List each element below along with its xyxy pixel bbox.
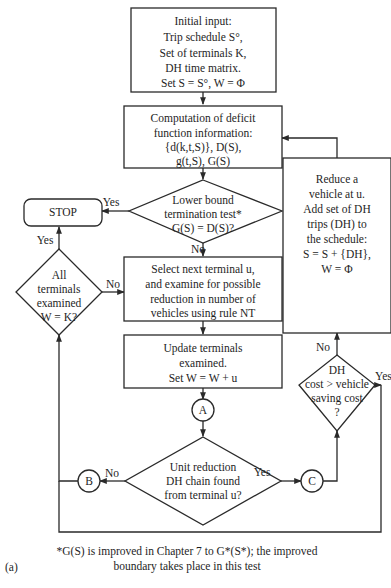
connector-c-label: C	[308, 475, 316, 487]
initial-input-line: Trip schedule S°,	[163, 31, 242, 44]
edge-connector-b-to-all-examined	[59, 335, 78, 481]
deficit-computation-line: Computation of deficit	[151, 112, 257, 125]
reduce-vehicle-line: Reduce a	[316, 173, 358, 185]
initial-input-line: DH time matrix.	[165, 62, 241, 74]
dh-cost-no-label: No	[316, 341, 330, 353]
unit-reduction-test-line: from terminal u?	[164, 489, 241, 501]
dh-cost-test-line: DH	[329, 364, 346, 376]
all-examined-no-label: No	[106, 278, 120, 290]
unit-reduction-test-line: DH chain found	[166, 475, 240, 487]
initial-input-line: Set of terminals K,	[160, 47, 247, 60]
lower-bound-yes-label: Yes	[103, 196, 120, 208]
unit-reduction-no-label: No	[105, 467, 119, 479]
unit-reduction-test-line: Unit reduction	[170, 461, 237, 473]
flowchart: Initial input: Trip schedule S°, Set of …	[0, 0, 391, 588]
select-next-terminal-line: vehicles using rule NT	[151, 307, 255, 320]
lower-bound-test-text: Lower bound termination test* G(S) = D(S…	[164, 194, 242, 235]
lower-bound-test-line: termination test*	[164, 208, 242, 220]
edge-connector-c-to-dh-cost	[323, 431, 337, 481]
reduce-vehicle-line: Add set of DH	[303, 203, 370, 215]
reduce-vehicle-line: the schedule:	[307, 233, 367, 245]
lower-bound-test-line: G(S) = D(S)?	[172, 222, 234, 235]
reduce-vehicle-line: W = Φ	[321, 263, 353, 275]
all-examined-yes-label: Yes	[37, 234, 54, 246]
select-next-terminal-line: Select next terminal u,	[151, 263, 255, 276]
update-terminals-line: examined.	[179, 357, 227, 369]
all-terminals-examined-line: examined	[37, 297, 82, 309]
reduce-vehicle-line: S = S + {DH},	[303, 248, 371, 261]
all-terminals-examined-line: W = K?	[41, 311, 77, 323]
initial-input-line: Initial input:	[174, 15, 231, 28]
connector-a-label: A	[199, 404, 208, 416]
update-terminals-line: Update terminals	[164, 342, 243, 355]
reduce-vehicle-text: Reduce a vehicle at u. Add set of DH tri…	[303, 173, 371, 275]
deficit-computation-line: {d(k,t,S)}, D(S),	[165, 141, 242, 154]
lower-bound-test-line: Lower bound	[172, 194, 234, 206]
dh-cost-test-line: saving cost	[311, 392, 363, 405]
dh-cost-test-line: cost > vehicle	[305, 378, 369, 390]
select-next-terminal-line: reduction in number of	[150, 293, 256, 305]
update-terminals-line: Set W = W + u	[169, 372, 238, 384]
dh-cost-yes-label: Yes	[375, 370, 391, 382]
unit-reduction-yes-label: Yes	[254, 466, 271, 478]
all-terminals-examined-line: All	[52, 269, 67, 281]
reduce-vehicle-line: vehicle at u.	[309, 188, 365, 200]
all-terminals-examined-line: terminals	[38, 283, 81, 295]
deficit-computation-line: g(t,S), G(S)	[176, 155, 230, 168]
connector-b-label: B	[85, 475, 93, 487]
footnote-line: *G(S) is improved in Chapter 7 to G*(S*)…	[57, 545, 318, 558]
deficit-computation-line: function information:	[154, 127, 253, 139]
select-next-terminal-line: and examine for possible	[145, 278, 260, 291]
reduce-vehicle-line: trips (DH) to	[307, 218, 367, 231]
stop-label: STOP	[49, 206, 77, 218]
panel-label: (a)	[5, 561, 18, 574]
unit-reduction-test-text: Unit reduction DH chain found from termi…	[164, 461, 241, 501]
footnote-line: boundary takes place in this test	[113, 560, 261, 573]
initial-input-line: Set S = S°, W = Φ	[161, 77, 246, 90]
dh-cost-test-line: ?	[334, 406, 339, 418]
lower-bound-no-label: No	[191, 243, 205, 255]
edge-reduce-to-deficit	[282, 138, 337, 158]
